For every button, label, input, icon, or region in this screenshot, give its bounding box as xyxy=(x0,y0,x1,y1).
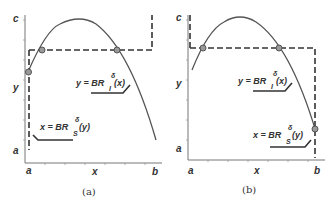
panel-a-curve-label: y = BR δ I (x) xyxy=(75,72,125,92)
panel-b-response-label: x = BR δ S (y) xyxy=(252,124,303,145)
panel-a-y-axis-label: y xyxy=(12,82,19,93)
svg-text:S: S xyxy=(73,130,78,137)
panel-b-best-response-curve xyxy=(192,17,316,132)
panel-a-response-label: x = BR δ S (y) xyxy=(39,116,90,137)
panel-a-x-max-label: b xyxy=(152,166,158,177)
svg-text:I: I xyxy=(109,85,112,92)
svg-text:S: S xyxy=(286,138,291,145)
panel-b-point-2 xyxy=(276,45,282,51)
panel-a-dashed-horizontal xyxy=(29,15,152,50)
svg-text:(x): (x) xyxy=(276,76,287,86)
panel-a-response-label-pointer xyxy=(33,135,73,140)
panel-a-y-min-label: a xyxy=(13,145,19,156)
panel-b-y-min-label: a xyxy=(176,143,182,154)
panel-a: c y a a x b y = BR δ I (x) x = BR δ S (y… xyxy=(12,13,162,197)
svg-text:(y): (y) xyxy=(79,122,90,132)
svg-text:(y): (y) xyxy=(292,130,303,140)
svg-text:I: I xyxy=(271,83,274,90)
svg-text:(x): (x) xyxy=(114,78,125,88)
svg-text:y = BR: y = BR xyxy=(75,78,105,88)
panel-b-x-axis-label: x xyxy=(253,165,260,176)
panel-b-y-axis-label: y xyxy=(175,78,182,89)
panel-b-x-min-label: a xyxy=(188,165,194,176)
panel-a-point-2 xyxy=(39,47,45,53)
panel-a-y-max-label: c xyxy=(13,13,19,24)
panel-b-dashed-horizontal xyxy=(190,48,315,158)
panel-a-x-min-label: a xyxy=(26,165,32,176)
svg-text:x = BR: x = BR xyxy=(252,130,282,140)
figure: c y a a x b y = BR δ I (x) x = BR δ S (y… xyxy=(0,0,335,209)
svg-text:y = BR: y = BR xyxy=(237,76,267,86)
panel-b-point-3 xyxy=(312,126,318,132)
panel-b-curve-label: y = BR δ I (x) xyxy=(237,70,287,90)
panel-b-y-max-label: c xyxy=(176,12,182,23)
panel-b-caption: (b) xyxy=(242,184,256,195)
panel-a-point-3 xyxy=(114,47,120,53)
svg-text:x = BR: x = BR xyxy=(39,122,69,132)
panel-a-caption: (a) xyxy=(82,186,96,197)
panel-b: c y a a x b y = BR δ I (x) x = BR δ S (y… xyxy=(175,12,325,195)
panel-b-x-max-label: b xyxy=(314,165,320,176)
panel-a-point-1 xyxy=(26,69,32,75)
panel-a-x-axis-label: x xyxy=(91,166,98,177)
panel-b-point-1 xyxy=(200,45,206,51)
